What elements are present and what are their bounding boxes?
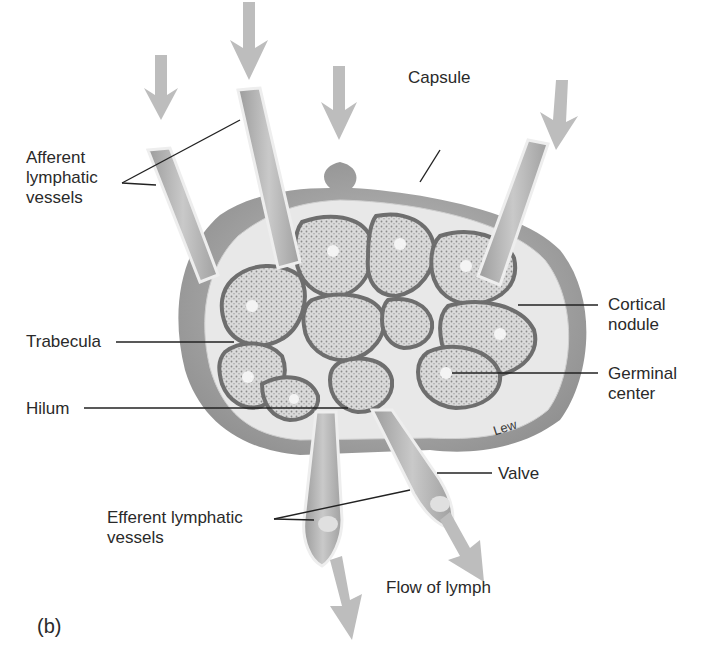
afferent-arrow-2 (230, 2, 268, 80)
efferent-arrow-1 (330, 556, 362, 640)
label-capsule: Capsule (408, 68, 470, 88)
panel-label: (b) (37, 615, 61, 638)
efferent-arrow-2 (440, 512, 484, 582)
afferent-arrow-1 (144, 55, 178, 120)
label-cortical-nodule: Cortical nodule (608, 295, 666, 335)
label-afferent-lymphatic-vessels: Afferent lymphatic vessels (26, 148, 98, 208)
label-flow-of-lymph: Flow of lymph (386, 578, 491, 598)
lymph-node-illustration (0, 0, 702, 652)
label-hilum: Hilum (26, 399, 69, 419)
afferent-arrow-4 (540, 80, 578, 150)
label-valve: Valve (498, 464, 539, 484)
label-efferent-lymphatic-vessels: Efferent lymphatic vessels (107, 508, 243, 548)
label-trabecula: Trabecula (26, 332, 101, 352)
afferent-arrow-3 (321, 66, 357, 140)
label-germinal-center: Germinal center (608, 364, 677, 404)
